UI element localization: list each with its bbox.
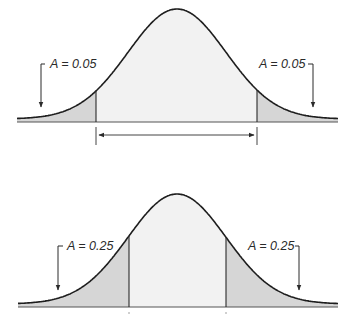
top-panel: A = 0.05 A = 0.05: [17, 9, 338, 145]
normal-distribution-diagram: A = 0.05 A = 0.05 A = 0.25 A = 0.25: [0, 0, 354, 315]
bottom-right-area-label: A = 0.25: [247, 239, 294, 253]
top-right-label-pointer: [308, 64, 313, 107]
bottom-left-area-label: A = 0.25: [66, 239, 113, 253]
top-left-area-label: A = 0.05: [49, 57, 96, 71]
bottom-left-label-pointer: [58, 246, 63, 290]
top-right-area-label: A = 0.05: [258, 57, 305, 71]
bottom-panel: A = 0.25 A = 0.25: [18, 194, 338, 314]
bottom-right-label-pointer: [295, 246, 299, 290]
top-left-label-pointer: [41, 64, 45, 107]
